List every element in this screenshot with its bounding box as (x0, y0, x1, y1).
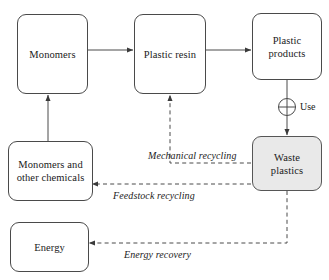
node-waste-plastics-label-line2: plastics (268, 164, 306, 177)
edge-label-energy-recovery: Energy recovery (124, 249, 191, 260)
edge-label-mechanical-recycling: Mechanical recycling (148, 150, 237, 161)
node-plastic-products-label-line1: Plastic (270, 34, 305, 47)
node-energy-label: Energy (31, 241, 68, 254)
edge-label-feedstock-recycling: Feedstock recycling (113, 190, 195, 201)
node-waste-plastics[interactable]: Waste plastics (252, 136, 322, 191)
node-monomers-label: Monomers (26, 48, 78, 61)
node-plastic-products-label-line2: products (266, 47, 309, 60)
diagram-canvas: Monomers Plastic resin Plastic products … (0, 0, 329, 280)
node-monomers[interactable]: Monomers (17, 14, 88, 94)
node-plastic-resin[interactable]: Plastic resin (134, 14, 206, 94)
node-monomers-and-other-chemicals-label-line2: other chemicals (14, 171, 88, 184)
node-energy[interactable]: Energy (10, 222, 89, 272)
edge-label-use: Use (300, 101, 316, 112)
node-monomers-and-other-chemicals-label-line1: Monomers and (15, 158, 85, 171)
node-monomers-and-other-chemicals[interactable]: Monomers and other chemicals (8, 141, 93, 201)
node-waste-plastics-label-line1: Waste (271, 151, 303, 164)
node-plastic-resin-label: Plastic resin (141, 48, 199, 61)
node-plastic-products[interactable]: Plastic products (252, 13, 322, 80)
